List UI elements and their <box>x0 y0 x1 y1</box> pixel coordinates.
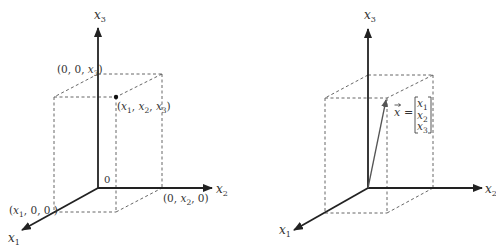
origin-label: 0 <box>104 174 110 185</box>
position-vector <box>368 100 386 188</box>
point-label-0-x2-0: (0, x2, 0) <box>163 192 209 207</box>
left-figure: x3 x2 x1 0 (0, 0, x3) (x1, x2, x3) (0, x… <box>8 8 228 247</box>
x2-axis-label: x2 <box>485 182 496 198</box>
point-dot <box>114 95 118 99</box>
x1-axis-label: x1 <box>279 223 291 239</box>
right-axes <box>294 29 482 230</box>
x2-axis-label: x2 <box>216 182 228 198</box>
x1-axis-label: x1 <box>8 231 20 247</box>
right-figure: x3 x2 x1 x = x1 x2 x3 <box>279 8 496 239</box>
vector-symbol: x <box>394 106 401 119</box>
x1-axis <box>294 188 368 230</box>
point-label-x1-x2-x3: (x1, x2, x3) <box>117 100 171 115</box>
x3-axis-label: x3 <box>94 8 106 24</box>
equals-sign: = <box>404 106 413 119</box>
point-label-0-0-x3: (0, 0, x3) <box>57 63 103 78</box>
right-bracket <box>428 97 431 133</box>
left-dashed-box <box>54 74 162 212</box>
right-dashed-box <box>325 75 433 213</box>
point-label-x1-0-0: (x1, 0, 0 ) <box>9 204 58 219</box>
x3-axis-label: x3 <box>364 8 376 24</box>
diagram-canvas: x3 x2 x1 0 (0, 0, x3) (x1, x2, x3) (0, x… <box>0 0 496 249</box>
vector-equation: x = x1 x2 x3 <box>394 97 431 135</box>
